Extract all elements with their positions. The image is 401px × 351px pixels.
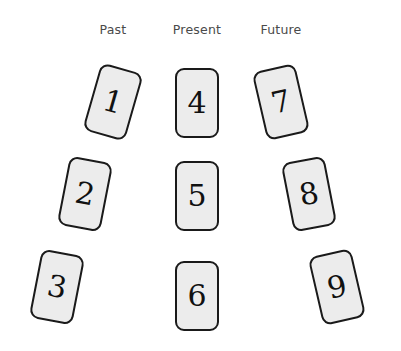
card-9[interactable]: 9 <box>308 248 367 326</box>
column-label-present: Present <box>173 22 221 37</box>
card-3[interactable]: 3 <box>29 248 86 325</box>
card-number-8: 8 <box>297 177 321 210</box>
card-4[interactable]: 4 <box>175 68 219 138</box>
card-number-6: 6 <box>187 281 206 311</box>
card-number-9: 9 <box>324 270 349 304</box>
card-6[interactable]: 6 <box>175 261 219 331</box>
card-2[interactable]: 2 <box>57 155 114 232</box>
card-number-1: 1 <box>100 85 127 119</box>
card-number-2: 2 <box>73 177 97 210</box>
card-5[interactable]: 5 <box>175 161 219 231</box>
card-number-4: 4 <box>187 88 206 118</box>
column-label-future: Future <box>260 22 301 37</box>
column-label-past: Past <box>100 22 127 37</box>
card-1[interactable]: 1 <box>82 62 144 141</box>
card-8[interactable]: 8 <box>281 155 338 232</box>
card-number-5: 5 <box>187 181 206 211</box>
card-number-3: 3 <box>45 270 69 303</box>
card-spread-canvas: Past Present Future 1 2 3 4 5 6 7 8 9 <box>0 0 401 351</box>
card-number-7: 7 <box>268 85 293 119</box>
card-7[interactable]: 7 <box>252 63 311 141</box>
